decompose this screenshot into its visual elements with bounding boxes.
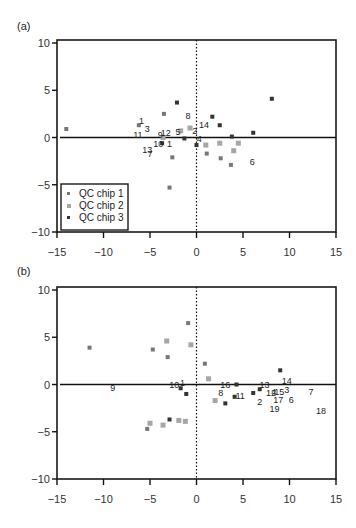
data-point <box>229 163 233 167</box>
data-point <box>223 401 227 405</box>
data-point <box>161 423 166 428</box>
y-tick-label: 0 <box>44 132 50 144</box>
data-point <box>168 186 172 190</box>
data-point <box>234 383 238 387</box>
x-tick-label: −5 <box>144 493 157 505</box>
point-label: 1 <box>139 116 144 126</box>
point-label: 5 <box>175 127 180 137</box>
point-label: 19 <box>270 404 280 414</box>
data-point <box>182 136 186 140</box>
legend-label: QC chip 3 <box>79 212 124 223</box>
y-tick-label: −10 <box>31 473 50 485</box>
point-label: 6 <box>289 395 294 405</box>
legend-marker <box>67 216 70 219</box>
pca-score-plots: (a)1050−5−10−15−10−505101513119125814241… <box>0 0 356 528</box>
x-tick-label: 10 <box>283 493 295 505</box>
x-tick-label: −15 <box>48 246 67 258</box>
data-point <box>205 152 209 156</box>
point-label: 1 <box>180 378 185 388</box>
data-point <box>148 421 153 426</box>
point-label: 11 <box>236 391 245 401</box>
panel-label: (a) <box>17 20 30 32</box>
point-label: 4 <box>197 134 202 144</box>
point-label: 7 <box>308 387 313 397</box>
data-point <box>219 156 223 160</box>
panel-a: (a)1050−5−10−15−10−505101513119125814241… <box>17 20 342 258</box>
data-point <box>236 141 241 146</box>
point-label: 8 <box>186 111 191 121</box>
x-tick-label: 0 <box>193 246 199 258</box>
x-tick-label: 5 <box>240 246 246 258</box>
y-tick-label: −5 <box>37 426 50 438</box>
y-tick-label: 0 <box>44 379 50 391</box>
y-tick-label: −10 <box>31 226 50 238</box>
x-tick-label: −10 <box>94 493 113 505</box>
series-qc-chip-3 <box>160 97 274 147</box>
data-point <box>88 346 92 350</box>
data-point <box>184 392 188 396</box>
data-point <box>218 123 222 127</box>
x-tick-label: −5 <box>144 246 157 258</box>
panel-b: (b)1050−5−10−15−10−505101591011681113124… <box>17 265 342 505</box>
data-point <box>217 141 222 146</box>
y-tick-label: −5 <box>37 179 50 191</box>
point-label: 2 <box>257 397 262 407</box>
data-point <box>213 398 218 403</box>
data-point <box>186 321 190 325</box>
data-point <box>162 112 166 116</box>
point-label: 9 <box>110 383 115 393</box>
y-tick-label: 5 <box>44 84 50 96</box>
y-tick-label: 10 <box>38 37 50 49</box>
point-label: 8 <box>218 388 223 398</box>
legend: QC chip 1QC chip 2QC chip 3 <box>61 184 128 230</box>
data-point <box>206 376 211 381</box>
data-point <box>166 355 170 359</box>
point-label: 11 <box>133 130 142 140</box>
legend-marker <box>67 192 70 195</box>
y-tick-label: 5 <box>44 331 50 343</box>
data-point <box>170 155 174 159</box>
legend-label: QC chip 1 <box>79 188 124 199</box>
point-label: 6 <box>250 157 255 167</box>
point-label: 10 <box>153 139 163 149</box>
data-point <box>278 368 282 372</box>
data-point <box>270 97 274 101</box>
point-label: 3 <box>145 124 150 134</box>
data-point <box>175 101 179 105</box>
data-point <box>251 131 255 135</box>
data-point <box>164 339 169 344</box>
point-label: 14 <box>282 376 292 386</box>
legend-marker <box>67 204 71 208</box>
data-point <box>203 362 207 366</box>
data-point <box>168 417 172 421</box>
x-tick-label: −15 <box>48 493 67 505</box>
x-tick-label: 15 <box>330 246 342 258</box>
data-point <box>188 342 193 347</box>
x-tick-label: 10 <box>283 246 295 258</box>
data-point <box>231 148 236 153</box>
x-tick-label: −10 <box>94 246 113 258</box>
point-label: 10 <box>169 380 179 390</box>
data-point <box>151 348 155 352</box>
series-qc-chip-1 <box>88 321 207 431</box>
x-tick-label: 5 <box>240 493 246 505</box>
data-point <box>64 127 68 131</box>
data-point <box>176 418 181 423</box>
data-point <box>183 419 188 424</box>
point-label: 7 <box>147 149 152 159</box>
x-tick-label: 0 <box>193 493 199 505</box>
data-point <box>203 143 208 148</box>
point-label: 12 <box>161 128 171 138</box>
data-point <box>230 135 234 139</box>
data-point <box>210 115 214 119</box>
point-label: 18 <box>316 406 326 416</box>
x-tick-label: 15 <box>330 493 342 505</box>
legend-label: QC chip 2 <box>79 200 124 211</box>
panel-label: (b) <box>17 265 30 277</box>
point-label: 1 <box>167 139 172 149</box>
data-point <box>251 391 255 395</box>
data-point <box>145 427 149 431</box>
y-tick-label: 10 <box>38 284 50 296</box>
point-label: 14 <box>199 120 209 130</box>
